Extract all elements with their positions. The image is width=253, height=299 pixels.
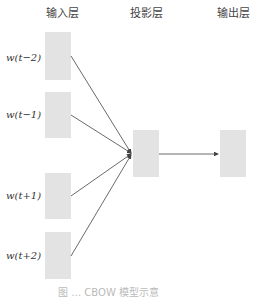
edge-input-1 <box>71 56 131 153</box>
edge-input-4 <box>71 155 131 256</box>
figure-caption: 图 … CBOW 模型示意 <box>58 284 159 299</box>
edge-input-2 <box>71 115 131 153</box>
edge-input-3 <box>71 154 131 196</box>
